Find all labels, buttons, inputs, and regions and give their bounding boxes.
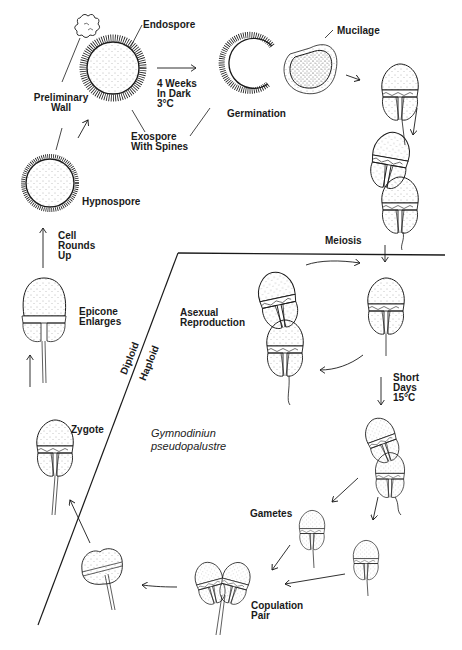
label-cell-rounds-up: Cell Rounds Up [58, 231, 95, 261]
label-hypnospore: Hypnospore [82, 197, 140, 207]
fused-zygote [82, 549, 123, 610]
haploid-swimming-cell [368, 278, 404, 334]
hypnospore-cyst [23, 156, 77, 210]
label-asexual-reproduction: Asexual Reproduction [180, 308, 245, 328]
label-mucilage: Mucilage [337, 26, 380, 36]
label-epicone-enlarges: Epicone Enlarges [79, 307, 121, 327]
asexual-dividing-cell-bottom [267, 320, 303, 376]
label-germination: Germination [227, 109, 286, 119]
swimming-cell-1 [382, 64, 418, 120]
species-genus: Gymnodiniun [151, 427, 226, 440]
haploid-boundary-horizontal [178, 253, 445, 255]
label-gametes: Gametes [250, 509, 292, 519]
gamete-left [299, 510, 325, 549]
label-incubation-conditions: 4 Weeks In Dark 3°C [157, 79, 197, 109]
endospore-cyst [83, 38, 143, 98]
label-preliminary-wall: Preliminary Wall [26, 93, 96, 113]
label-endospore: Endospore [143, 20, 195, 30]
mucilage-cyst [284, 45, 337, 94]
label-meiosis: Meiosis [325, 236, 362, 246]
gamete-forming-cell-bottom [375, 453, 404, 498]
copulation-pair [191, 559, 253, 635]
germination-cyst [222, 35, 272, 91]
label-exospore-spines: Exospore With Spines [131, 132, 188, 152]
species-name: Gymnodiniun pseudopalustre [151, 427, 226, 453]
preliminary-wall-blob [75, 14, 100, 37]
gamete-right [353, 540, 379, 579]
label-zygote: Zygote [71, 425, 104, 435]
dividing-cell-bottom [382, 177, 418, 233]
epicone-enlarges-cell [22, 278, 66, 383]
label-copulation-pair: Copulation Pair [251, 601, 303, 621]
species-epithet: pseudopalustre [151, 440, 226, 453]
zygote-cell [37, 420, 73, 476]
label-short-days: Short Days 15°C [393, 373, 419, 403]
